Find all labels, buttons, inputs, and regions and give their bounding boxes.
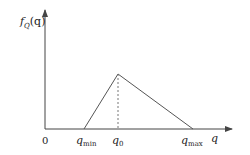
tick-q-0: q0 (112, 134, 124, 148)
x-axis-label: q (211, 132, 218, 145)
density-curve (84, 74, 193, 129)
tick-q-max: qmax (181, 134, 203, 148)
tick-q-min: qmin (76, 134, 97, 148)
y-axis-label: fQ(q) (19, 15, 45, 30)
triangular-distribution-diagram: fQ(q) q 0 qmin q0 qmax (0, 0, 250, 155)
origin-label: 0 (42, 135, 48, 146)
